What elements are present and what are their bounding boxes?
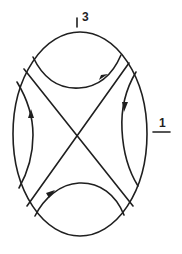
separatrix-ascending (27, 63, 129, 206)
label-top: 3 (82, 10, 89, 24)
trajectory-bottom (35, 183, 124, 216)
trajectory-left (17, 82, 33, 188)
label-right: 1 (159, 116, 166, 130)
separatrix-descending (24, 69, 133, 206)
arrow-bottom-icon (46, 190, 55, 198)
trajectory-top (33, 55, 121, 88)
phase-diagram: 3 1 (0, 0, 182, 254)
trajectory-right (122, 72, 138, 186)
